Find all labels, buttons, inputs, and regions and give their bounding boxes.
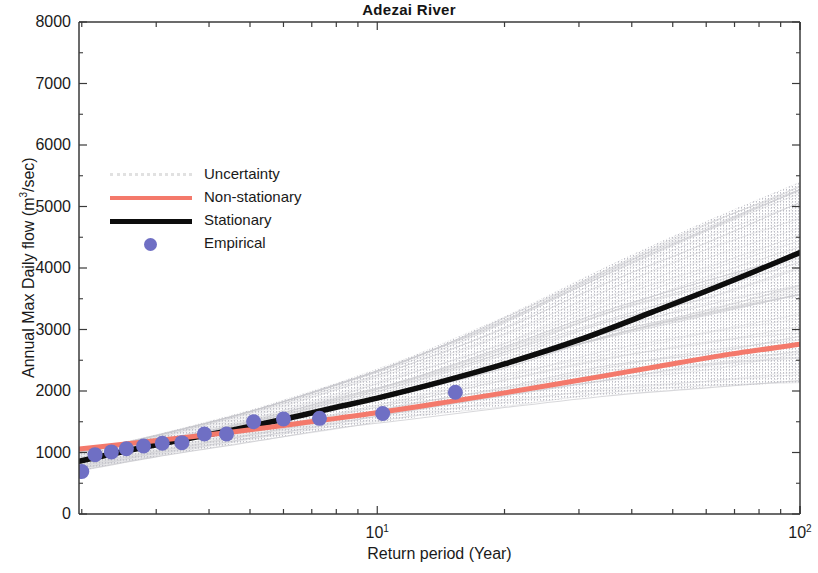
- y-tick-label: 4000: [1, 259, 71, 277]
- empirical-point: [174, 435, 189, 450]
- empirical-point: [88, 447, 103, 462]
- x-tick-label: 101: [366, 523, 389, 542]
- chart-title: Adezai River: [0, 1, 818, 18]
- x-axis-label: Return period (Year): [79, 545, 800, 563]
- plot-canvas: [0, 0, 818, 573]
- empirical-point: [74, 464, 89, 479]
- y-tick-label: 6000: [1, 136, 71, 154]
- empirical-point: [375, 406, 390, 421]
- y-axis-label-suffix: /sec): [20, 157, 37, 192]
- y-axis-label-text: Annual Max Daily flow (m: [20, 198, 37, 379]
- empirical-point: [155, 436, 170, 451]
- empirical-point: [246, 414, 261, 429]
- uncertainty-band-group: [79, 182, 800, 471]
- legend-label: Uncertainty: [204, 165, 280, 182]
- y-tick-label: 8000: [1, 13, 71, 31]
- y-tick-label: 3000: [1, 321, 71, 339]
- empirical-point: [197, 427, 212, 442]
- empirical-point: [276, 411, 291, 426]
- legend-swatch-empirical: [144, 238, 157, 251]
- x-tick-label: 102: [788, 523, 811, 542]
- legend-swatch-non-stationary: [110, 196, 192, 200]
- empirical-point: [448, 385, 463, 400]
- legend-label: Stationary: [204, 211, 272, 228]
- legend-label: Empirical: [204, 234, 266, 251]
- empirical-point: [136, 439, 151, 454]
- empirical-point: [119, 441, 134, 456]
- empirical-point: [219, 427, 234, 442]
- y-tick-label: 1000: [1, 444, 71, 462]
- empirical-point: [104, 444, 119, 459]
- legend-swatch-stationary: [110, 219, 192, 224]
- y-tick-label: 7000: [1, 75, 71, 93]
- legend-swatch-uncertainty: [110, 173, 192, 176]
- y-tick-label: 5000: [1, 198, 71, 216]
- y-tick-label: 2000: [1, 382, 71, 400]
- chart-figure: Adezai River Annual Max Daily flow (m3/s…: [0, 0, 818, 573]
- legend-label: Non-stationary: [204, 188, 302, 205]
- y-tick-label: 0: [1, 505, 71, 523]
- empirical-point: [312, 411, 327, 426]
